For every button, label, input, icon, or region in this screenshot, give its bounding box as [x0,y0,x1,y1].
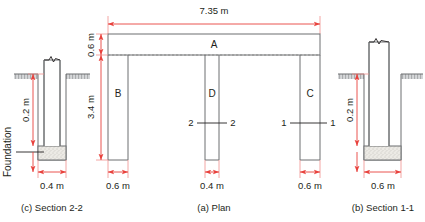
foundation-label: Foundation [2,127,13,177]
plan-caption: (a) Plan [197,202,230,213]
footing-block-b [364,146,401,160]
column-b-label: B [115,88,122,99]
plan-group: 7.35 m A B D C 2 2 1 1 [85,5,336,213]
engineering-drawing: 0.2 m Foundation 0.4 m (c) Section 2-2 7… [0,0,425,222]
plan-span-label: 7.35 m [199,5,228,16]
column-c-label: C [306,88,313,99]
column-height-label: 3.4 m [85,95,96,119]
column-b-width-label: 0.6 m [106,180,130,191]
section-2-2-caption: (c) Section 2-2 [21,202,83,213]
column-d-label: D [208,88,215,99]
column-d-width-label: 0.4 m [200,180,224,191]
beam-depth-label: 0.6 m [85,33,96,57]
section-2-2-group: 0.2 m Foundation 0.4 m (c) Section 2-2 [2,57,90,214]
section-mark-2-left-label: 2 [188,117,193,128]
section-mark-1-right-label: 1 [330,117,335,128]
ground-hatch-left-b [338,74,364,79]
section-mark-1-left-label: 1 [281,117,286,128]
section-2-2-width-label: 0.4 m [40,180,64,191]
ground-hatch-right [66,74,90,79]
section-1-1-group: 0.2 m 0.6 m (b) Section 1-1 [338,39,423,214]
beam-a-label: A [211,39,218,50]
figure-root: 0.2 m Foundation 0.4 m (c) Section 2-2 7… [0,0,425,222]
column-outline-b [369,42,389,146]
footing-block [38,146,66,160]
column-c-width-label: 0.6 m [298,180,322,191]
section-mark-2-right-label: 2 [230,117,235,128]
section-1-1-depth-label: 0.2 m [344,98,355,122]
column-outline [44,60,60,146]
ground-hatch-left [14,74,38,79]
section-2-2-depth-label: 0.2 m [20,98,31,122]
section-1-1-caption: (b) Section 1-1 [352,202,414,213]
column-b-outline [108,55,128,160]
column-d-outline [205,55,219,160]
section-1-1-width-label: 0.6 m [371,180,395,191]
column-c-outline [300,55,320,160]
ground-hatch-right-b [401,74,423,79]
